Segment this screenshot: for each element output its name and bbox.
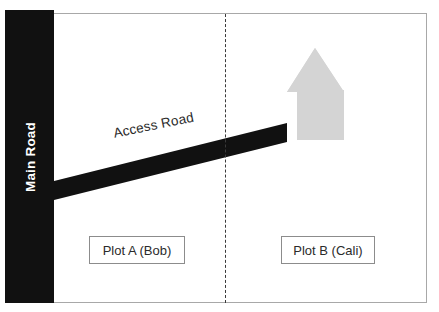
site-plan-diagram: Main Road Access Road Plot A (Bob) Plot … — [0, 0, 439, 312]
plot-label-a-text: Plot A (Bob) — [103, 243, 172, 258]
main-road-label: Main Road — [22, 121, 37, 191]
plot-label-b-text: Plot B (Cali) — [293, 243, 362, 258]
main-road-band: Main Road — [5, 10, 54, 303]
house-icon — [283, 44, 355, 144]
plot-label-a: Plot A (Bob) — [89, 236, 185, 264]
plot-divider-line — [225, 14, 226, 303]
plot-label-b: Plot B (Cali) — [281, 236, 375, 264]
access-road-shape — [0, 0, 439, 312]
